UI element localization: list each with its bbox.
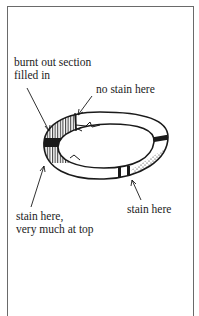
arrow-stain-left <box>31 166 44 207</box>
ring-band <box>40 110 170 182</box>
burnt-section-upper-hatch <box>44 110 76 138</box>
joint-bottom-right <box>127 166 130 180</box>
arrow-stain-right <box>132 180 141 200</box>
ring-inner-edge <box>58 124 154 168</box>
arrow-burnt-out <box>27 88 49 131</box>
